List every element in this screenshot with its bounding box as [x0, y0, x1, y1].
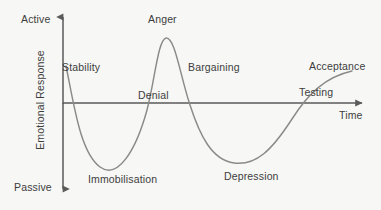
- diagram-canvas: Active Passive Time Emotional Response S…: [0, 0, 381, 210]
- stage-label-bargaining: Bargaining: [188, 62, 240, 73]
- y-axis-bottom-label: Passive: [14, 182, 52, 193]
- stage-label-acceptance: Acceptance: [309, 61, 365, 72]
- emotional-response-curve: [66, 38, 352, 170]
- stage-label-denial: Denial: [138, 90, 169, 101]
- stage-label-depression: Depression: [224, 171, 279, 182]
- x-axis-title: Time: [339, 110, 363, 121]
- y-axis-top-label: Active: [21, 14, 51, 25]
- stage-label-testing: Testing: [299, 87, 333, 98]
- y-axis-title: Emotional Response: [34, 50, 46, 150]
- stage-label-immobilisation: Immobilisation: [88, 174, 157, 185]
- stage-label-anger: Anger: [148, 14, 177, 25]
- change-curve-graphic: [0, 0, 381, 210]
- stage-label-stability: Stability: [62, 62, 100, 73]
